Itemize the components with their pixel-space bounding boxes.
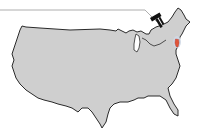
highlighted-state-new-jersey [175, 39, 179, 47]
leader-line [0, 10, 157, 22]
us-map: Contiguous United States New Jersey [0, 0, 198, 138]
us-landmass [12, 8, 190, 128]
